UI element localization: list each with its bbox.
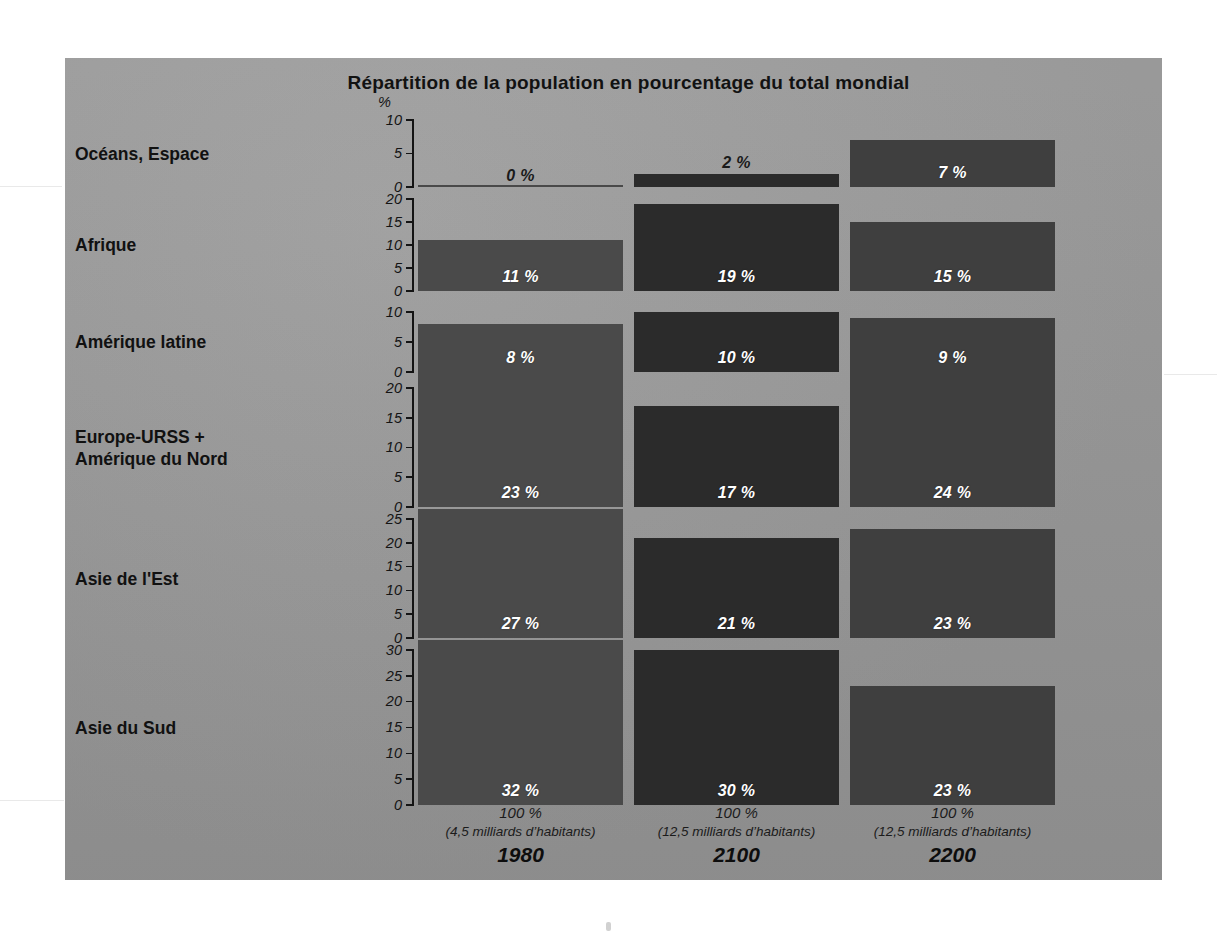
bar-1980-4[interactable]: 23 % — [418, 370, 623, 507]
y-tick-label: 20 — [386, 694, 402, 709]
y-tick-label: 30 — [386, 643, 402, 658]
y-tick-label: 5 — [394, 261, 402, 276]
y-tick-label: 10 — [386, 113, 402, 128]
bar-value-label: 2 % — [634, 154, 839, 172]
bar-2100-6[interactable]: 30 % — [634, 650, 839, 805]
y-tick-mark — [406, 506, 414, 508]
column-total-percent: 100 % — [634, 804, 839, 823]
y-tick-mark — [406, 341, 414, 343]
y-axis-1: 1050 — [356, 120, 414, 187]
chart-row: Océans, Espace1050%0 %2 %7 % — [65, 116, 1162, 191]
y-axis-4: 20151050 — [356, 388, 414, 507]
plot-area-5: 27 %21 %23 % — [418, 519, 1055, 638]
y-tick-label: 10 — [386, 746, 402, 761]
column-population: (4,5 milliards d’habitants) — [418, 823, 623, 841]
y-tick-mark — [406, 311, 414, 313]
bar-value-label: 27 % — [502, 615, 540, 638]
bar-value-label: 23 % — [934, 615, 972, 638]
column-year: 2100 — [634, 843, 839, 867]
y-tick-mark — [406, 244, 414, 246]
row-label-1: Océans, Espace — [75, 143, 345, 165]
bar-1980-2[interactable]: 11 % — [418, 240, 623, 291]
bar-value-label: 0 % — [418, 167, 623, 185]
y-axis-6: 302520151050 — [356, 650, 414, 805]
column-population: (12,5 milliards d’habitants) — [850, 823, 1055, 841]
bar-1980-5[interactable]: 27 % — [418, 509, 623, 638]
y-tick-mark — [406, 566, 414, 568]
column-year: 2200 — [850, 843, 1055, 867]
column-year: 1980 — [418, 843, 623, 867]
y-tick-mark — [406, 119, 414, 121]
column-population: (12,5 milliards d’habitants) — [634, 823, 839, 841]
bar-value-label: 24 % — [934, 484, 972, 507]
column-total-percent: 100 % — [850, 804, 1055, 823]
bar-2100-3[interactable]: 10 % — [634, 312, 839, 372]
bar-2100-1[interactable]: 2 % — [634, 174, 839, 187]
y-tick-label: 0 — [394, 365, 402, 380]
plot-area-6: 32 %30 %23 % — [418, 650, 1055, 805]
chart-footer: 100 %(4,5 milliards d’habitants)1980100 … — [65, 798, 1162, 870]
bar-2200-4[interactable]: 24 % — [850, 364, 1055, 507]
chart-row: Afrique2015105011 %19 %15 % — [65, 195, 1162, 295]
y-tick-mark — [406, 613, 414, 615]
chart-row: Asie de l'Est252015105027 %21 %23 % — [65, 515, 1162, 642]
y-axis-5: 2520151050 — [356, 519, 414, 638]
chart-title: Répartition de la population en pourcent… — [65, 72, 1162, 94]
y-tick-label: 10 — [386, 238, 402, 253]
column-total-percent: 100 % — [418, 804, 623, 823]
chart-panel: Répartition de la population en pourcent… — [65, 58, 1162, 880]
zero-baseline — [418, 185, 623, 187]
y-tick-label: 5 — [394, 146, 402, 161]
bar-2200-1[interactable]: 7 % — [850, 140, 1055, 187]
bar-2100-2[interactable]: 19 % — [634, 204, 839, 291]
y-tick-label: 5 — [394, 607, 402, 622]
y-tick-label: 15 — [386, 559, 402, 574]
y-tick-label: 15 — [386, 411, 402, 426]
chart-row: Asie du Sud30252015105032 %30 %23 % — [65, 646, 1162, 809]
bar-1980-6[interactable]: 32 % — [418, 640, 623, 805]
bar-2100-5[interactable]: 21 % — [634, 538, 839, 638]
y-tick-mark — [406, 476, 414, 478]
screenshot-root: Répartition de la population en pourcent… — [0, 0, 1217, 940]
y-tick-label: 15 — [386, 215, 402, 230]
y-tick-mark — [406, 649, 414, 651]
bar-2100-4[interactable]: 17 % — [634, 406, 839, 507]
y-tick-label: 25 — [386, 669, 402, 684]
bar-2200-2[interactable]: 15 % — [850, 222, 1055, 291]
y-tick-mark — [406, 267, 414, 269]
bar-value-label: 10 % — [718, 349, 756, 372]
paper-scanline — [1164, 374, 1217, 375]
y-tick-label: 5 — [394, 772, 402, 787]
y-tick-label: 10 — [386, 440, 402, 455]
bar-value-label: 19 % — [718, 268, 756, 291]
y-tick-label: 20 — [386, 536, 402, 551]
y-tick-mark — [406, 518, 414, 520]
bar-2200-5[interactable]: 23 % — [850, 529, 1055, 638]
bar-value-label: 15 % — [934, 268, 972, 291]
plot-area-3: 8 %10 %9 % — [418, 312, 1055, 372]
y-axis-3: 1050 — [356, 312, 414, 372]
bar-2200-6[interactable]: 23 % — [850, 686, 1055, 805]
y-tick-mark — [406, 447, 414, 449]
y-tick-mark — [406, 753, 414, 755]
bar-value-label: 17 % — [718, 484, 756, 507]
y-tick-mark — [406, 701, 414, 703]
plot-area-1: 0 %2 %7 % — [418, 120, 1055, 187]
paper-scanline — [0, 186, 62, 187]
y-tick-mark — [406, 387, 414, 389]
y-tick-label: 15 — [386, 720, 402, 735]
y-tick-mark — [406, 371, 414, 373]
column-annotation-1980: 100 %(4,5 milliards d’habitants)1980 — [418, 804, 623, 867]
bar-1980-3[interactable]: 8 % — [418, 324, 623, 372]
y-tick-mark — [406, 727, 414, 729]
chart-row: Europe-URSS +Amérique du Nord2015105023 … — [65, 384, 1162, 511]
row-label-3: Amérique latine — [75, 331, 345, 353]
y-tick-mark — [406, 637, 414, 639]
y-tick-mark — [406, 153, 414, 155]
y-tick-label: 20 — [386, 192, 402, 207]
bar-value-label: 11 % — [502, 268, 538, 291]
plot-area-4: 23 %17 %24 % — [418, 388, 1055, 507]
y-tick-label: 5 — [394, 470, 402, 485]
y-tick-label: 20 — [386, 381, 402, 396]
y-tick-mark — [406, 542, 414, 544]
